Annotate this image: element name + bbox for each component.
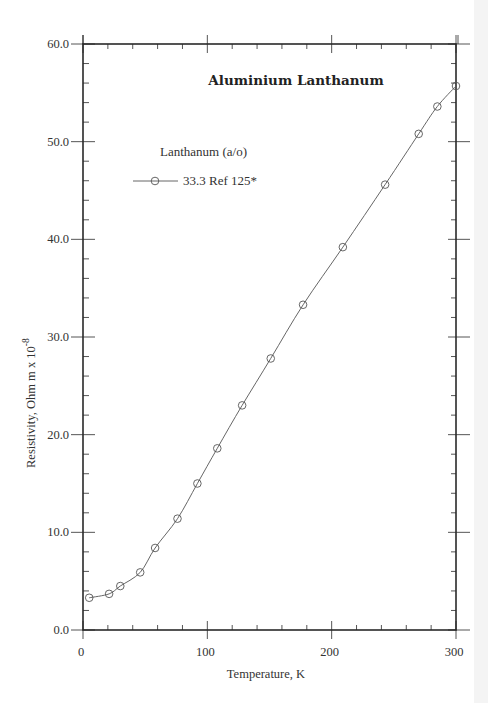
x-tick-label: 100 xyxy=(196,645,215,659)
y-tick-label: 40.0 xyxy=(47,232,69,246)
data-point-circle-marker xyxy=(452,82,460,90)
plot-frame xyxy=(83,35,458,630)
y-tick-label: 50.0 xyxy=(47,135,69,149)
legend: Lanthanum (a/o) 33.3 Ref 125* xyxy=(133,144,257,188)
data-point-circle-marker xyxy=(267,355,275,363)
data-point-circle-marker xyxy=(136,569,144,577)
x-tick-label: 300 xyxy=(445,645,464,659)
data-point-circle-marker xyxy=(213,445,221,453)
y-axis-title-exponent: -8 xyxy=(21,338,31,346)
chart-title: Aluminium Lanthanum xyxy=(207,72,383,88)
data-point-circle-marker xyxy=(85,594,93,602)
x-tick-label: 200 xyxy=(320,645,339,659)
y-tick-label: 60.0 xyxy=(47,37,69,51)
data-point-circle-marker xyxy=(238,402,246,410)
data-point-circle-marker xyxy=(117,582,125,590)
y-tick-label: 0.0 xyxy=(53,623,69,637)
data-point-circle-marker xyxy=(434,103,442,111)
data-point-circle-marker xyxy=(194,480,202,488)
y-tick-label: 10.0 xyxy=(47,525,69,539)
legend-entry-label: 33.3 Ref 125* xyxy=(183,173,257,188)
y-tick-label: 30.0 xyxy=(47,330,69,344)
data-point-circle-marker xyxy=(151,544,159,552)
data-point-circle-marker xyxy=(339,243,347,251)
data-point-circle-marker xyxy=(174,515,182,523)
axis-ticks xyxy=(71,35,470,639)
series-line xyxy=(89,86,456,598)
y-axis-title: Resistivity, Ohm m x 10-8 xyxy=(21,338,38,468)
resistivity-chart: 0.010.020.030.040.050.060.0 0100200300 A… xyxy=(0,0,488,703)
legend-title: Lanthanum (a/o) xyxy=(160,144,247,159)
data-point-circle-marker xyxy=(299,301,307,309)
data-point-circle-marker xyxy=(105,590,113,598)
y-tick-label: 20.0 xyxy=(47,428,69,442)
y-axis-tick-labels: 0.010.020.030.040.050.060.0 xyxy=(47,37,69,637)
data-series xyxy=(85,82,459,601)
x-axis-tick-labels: 0100200300 xyxy=(78,645,464,659)
data-point-circle-marker xyxy=(381,181,389,189)
x-tick-label: 0 xyxy=(78,645,84,659)
x-axis-title: Temperature, K xyxy=(227,667,305,681)
y-axis-title-text: Resistivity, Ohm m x 10 xyxy=(24,346,38,468)
data-point-circle-marker xyxy=(415,130,423,138)
plot-border xyxy=(83,44,456,630)
